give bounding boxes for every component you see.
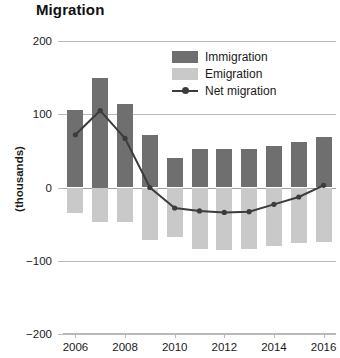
net-migration-point — [321, 183, 326, 188]
legend-line-marker-icon — [172, 85, 198, 97]
legend-item-immigration: Immigration — [172, 48, 276, 65]
x-tick-label: 2016 — [302, 341, 340, 353]
y-axis-title: (thousands) — [13, 134, 25, 224]
legend-swatch-immigration-icon — [172, 51, 198, 63]
y-tick-label: 200 — [0, 35, 52, 47]
net-migration-point — [122, 136, 127, 141]
y-tick-label: 0 — [0, 182, 52, 194]
legend-item-net-migration: Net migration — [172, 82, 276, 99]
x-tick-label: 2012 — [202, 341, 246, 353]
net-migration-point — [247, 209, 252, 214]
net-migration-point — [147, 185, 152, 190]
chart-legend: Immigration Emigration Net migration — [172, 48, 276, 99]
net-migration-point — [172, 205, 177, 210]
y-tick-label: −100 — [0, 255, 52, 267]
legend-item-emigration: Emigration — [172, 65, 276, 82]
migration-chart: Migration (thousands) 2001000−100−200200… — [0, 0, 340, 358]
net-migration-point — [197, 208, 202, 213]
legend-label-immigration: Immigration — [205, 50, 268, 64]
legend-swatch-emigration-icon — [172, 68, 198, 80]
chart-title: Migration — [36, 1, 104, 18]
net-migration-point — [222, 210, 227, 215]
net-migration-point — [73, 132, 78, 137]
legend-label-net-migration: Net migration — [205, 84, 276, 98]
x-tick-label: 2014 — [252, 341, 296, 353]
x-tick-label: 2008 — [103, 341, 147, 353]
legend-label-emigration: Emigration — [205, 67, 262, 81]
x-tick-label: 2006 — [53, 341, 97, 353]
net-migration-point — [296, 194, 301, 199]
y-tick-label: 100 — [0, 108, 52, 120]
net-migration-point — [98, 108, 103, 113]
x-tick-label: 2010 — [153, 341, 197, 353]
net-migration-point — [271, 202, 276, 207]
y-tick-label: −200 — [0, 328, 52, 340]
gridline--200 — [63, 334, 336, 335]
y-tick-mark — [58, 334, 63, 335]
